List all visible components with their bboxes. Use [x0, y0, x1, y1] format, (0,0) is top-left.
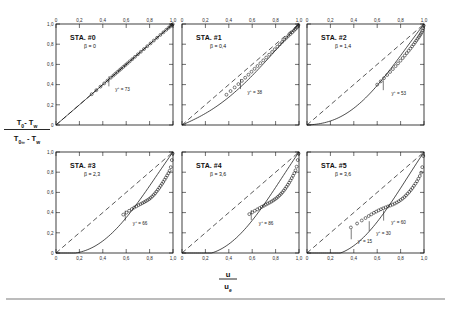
data-point [268, 53, 271, 56]
data-point [364, 217, 367, 220]
panel-station-label: STA. #3 [70, 162, 96, 169]
x-tick-label: 0,6 [249, 18, 256, 23]
y-tick-label: 0,4 [47, 210, 54, 215]
data-point [122, 213, 125, 216]
y-tick-label: 0 [51, 251, 54, 256]
x-tick-label: 0,4 [100, 256, 107, 261]
data-point [293, 172, 296, 175]
x-tick-label: 1,0 [421, 256, 428, 261]
data-point [262, 59, 265, 62]
data-point [405, 194, 408, 197]
y-tick-label: 0 [51, 123, 54, 128]
x-tick-label: 0,2 [76, 18, 83, 23]
x-tick-label: 1,0 [296, 18, 303, 23]
panel-beta-label: β = 0 [84, 43, 96, 49]
x-tick-label: 0,4 [351, 18, 358, 23]
data-point [259, 62, 262, 65]
x-tick-label: 0 [181, 18, 184, 23]
annotation-label: y+ = 73 [115, 86, 130, 92]
data-point [389, 71, 392, 74]
data-point [417, 177, 420, 180]
panel-beta-label: β = 0,4 [210, 43, 226, 49]
data-point [406, 192, 409, 195]
data-point [244, 76, 247, 79]
data-point [360, 219, 363, 222]
x-tick-label: 0,2 [327, 18, 334, 23]
panel-beta-label: β = 1,4 [335, 43, 351, 49]
x-tick-label: 0,6 [374, 18, 381, 23]
plot-panel-sta-5: 00,20,40,60,81,0STA. #5β = 3,6y+ = 15y+ … [306, 152, 428, 261]
y-tick-label: 0,6 [47, 190, 54, 195]
x-tick-label: 0,8 [272, 18, 279, 23]
x-tick-label: 0,6 [249, 256, 256, 261]
panel-beta-label: β = 3,6 [210, 171, 226, 177]
data-point [273, 48, 276, 51]
annotation-label: y+ = 30 [376, 230, 391, 236]
x-tick-label: 0,8 [272, 256, 279, 261]
x-tick-label: 0,8 [146, 18, 153, 23]
panel-station-label: STA. #2 [321, 34, 347, 41]
data-point [265, 56, 268, 59]
panel-station-label: STA. #0 [70, 34, 96, 41]
data-point [247, 73, 250, 76]
x-tick-label: 0,2 [202, 18, 209, 23]
x-tick-label: 0,4 [226, 18, 233, 23]
data-series [376, 24, 425, 86]
data-point [411, 45, 414, 48]
x-tick-label: 0,8 [397, 256, 404, 261]
panel-station-label: STA. #5 [321, 162, 347, 169]
data-point [409, 189, 412, 192]
y-tick-label: 0,4 [47, 82, 54, 87]
y-tick-label: 0,2 [47, 231, 54, 236]
x-tick-label: 0,6 [123, 18, 130, 23]
data-point [250, 70, 253, 73]
x-axis-numerator: u [226, 270, 231, 279]
plot-panel-sta-0: 000,20,20,40,40,60,60,80,81,01,0STA. #0β… [47, 18, 177, 128]
x-tick-label: 0,2 [327, 256, 334, 261]
plot-panel-sta-2: 00,20,40,60,81,0STA. #2β = 1,4y+ = 53 [306, 18, 428, 126]
data-point [367, 215, 370, 218]
x-tick-label: 0,8 [146, 256, 153, 261]
data-point [397, 62, 400, 65]
y-tick-label: 0,8 [47, 42, 54, 47]
x-tick-label: 0,6 [374, 256, 381, 261]
data-point [128, 209, 131, 212]
data-point [421, 166, 424, 169]
data-point [401, 57, 404, 60]
x-tick-label: 0 [306, 18, 309, 23]
x-tick-label: 1,0 [421, 18, 428, 23]
data-series [225, 24, 300, 97]
data-point [225, 93, 228, 96]
data-point [237, 83, 240, 86]
data-point [394, 65, 397, 68]
x-tick-label: 0,4 [226, 256, 233, 261]
annotation-label: y+ = 53 [391, 90, 406, 96]
figure-canvas: 000,20,20,40,40,60,60,80,81,01,0STA. #0β… [0, 0, 451, 309]
x-tick-label: 0,8 [397, 18, 404, 23]
y-tick-label: 0,2 [47, 103, 54, 108]
data-point [356, 222, 359, 225]
annotation-label: y+ = 15 [358, 238, 373, 244]
panel-beta-label: β = 3,6 [335, 171, 351, 177]
y-tick-label: 0,8 [47, 170, 54, 175]
data-point [169, 166, 172, 169]
panel-beta-label: β = 2,3 [84, 171, 100, 177]
y-axis-numerator: T0- Tw [17, 118, 38, 129]
data-point [256, 65, 259, 68]
y-axis-label: T0- TwT0∞ - Tw [4, 118, 50, 145]
x-tick-label: 0 [181, 256, 184, 261]
panel-station-label: STA. #1 [196, 34, 222, 41]
temperature-velocity-profile-figure: 000,20,20,40,40,60,60,80,81,01,0STA. #0β… [0, 0, 451, 309]
data-point [253, 67, 256, 70]
panel-station-label: STA. #4 [196, 162, 222, 169]
data-point [233, 86, 236, 89]
annotation-label: y+ = 66 [133, 220, 148, 226]
x-tick-label: 0 [306, 256, 309, 261]
data-point [168, 169, 171, 172]
data-point [294, 169, 297, 172]
data-point [229, 90, 232, 93]
data-point [420, 171, 423, 174]
x-tick-label: 1,0 [296, 256, 303, 261]
data-point [349, 226, 352, 229]
x-tick-label: 0,2 [76, 256, 83, 261]
